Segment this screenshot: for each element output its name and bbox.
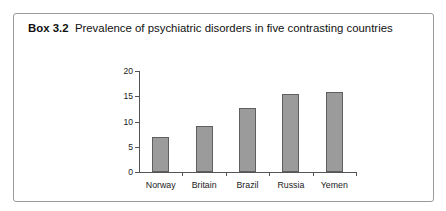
- x-axis-tick: [313, 172, 314, 176]
- box-title: Box 3.2 Prevalence of psychiatric disord…: [28, 21, 420, 36]
- y-axis-tick: [135, 122, 139, 123]
- screenshot-root: Box 3.2 Prevalence of psychiatric disord…: [0, 0, 446, 211]
- x-axis-label-brazil: Brazil: [237, 181, 259, 190]
- y-axis-tick-label: 5: [128, 142, 133, 151]
- box-caption: Prevalence of psychiatric disorders in f…: [75, 22, 393, 34]
- y-axis-tick-label: 10: [123, 117, 133, 126]
- y-axis-tick-label: 15: [123, 92, 133, 101]
- bar-russia: [282, 94, 299, 172]
- chart-plot-area: 05101520NorwayBritainBrazilRussiaYemen: [139, 71, 356, 172]
- bar-brazil: [239, 108, 256, 172]
- bar-norway: [152, 137, 169, 172]
- y-axis-line: [139, 71, 140, 172]
- box-frame: Box 3.2 Prevalence of psychiatric disord…: [13, 13, 434, 202]
- x-axis-tick: [226, 172, 227, 176]
- y-axis-tick: [135, 96, 139, 97]
- y-axis-tick-label: 20: [123, 67, 133, 76]
- x-axis-line: [139, 172, 356, 173]
- y-axis-tick: [135, 71, 139, 72]
- bar-chart: 05101520NorwayBritainBrazilRussiaYemen: [119, 66, 359, 196]
- x-axis-tick: [182, 172, 183, 176]
- x-axis-label-britain: Britain: [192, 181, 217, 190]
- y-axis-tick: [135, 147, 139, 148]
- box-label: Box 3.2: [28, 22, 69, 34]
- y-axis-tick: [135, 172, 139, 173]
- y-axis-tick-label: 0: [128, 168, 133, 177]
- x-axis-tick: [356, 172, 357, 176]
- bar-yemen: [326, 92, 343, 172]
- bar-britain: [196, 126, 213, 172]
- x-axis-tick: [269, 172, 270, 176]
- x-axis-label-russia: Russia: [277, 181, 304, 190]
- x-axis-label-yemen: Yemen: [321, 181, 348, 190]
- x-axis-label-norway: Norway: [146, 181, 176, 190]
